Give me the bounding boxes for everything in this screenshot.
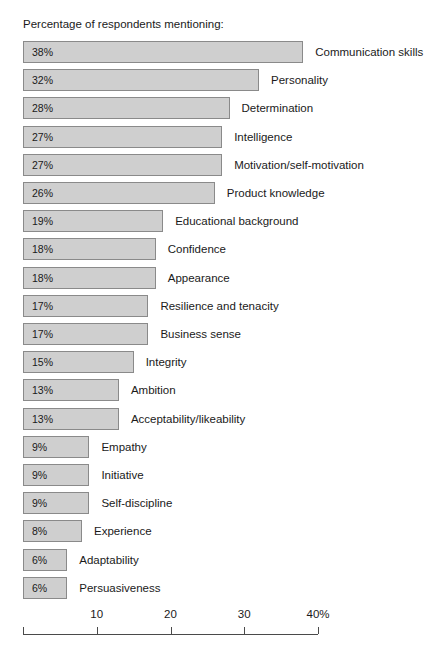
bar-category-label: Integrity: [146, 356, 187, 368]
bar-self-discipline[interactable]: 9%: [23, 492, 89, 514]
bar-category-label: Communication skills: [315, 46, 423, 58]
bar-initiative[interactable]: 9%: [23, 464, 89, 486]
bar-ambition[interactable]: 13%: [23, 379, 119, 401]
bar-category-label: Experience: [94, 525, 152, 537]
bar-value-label: 28%: [32, 102, 53, 114]
bar-empathy[interactable]: 9%: [23, 436, 89, 458]
bar-educational-background[interactable]: 19%: [23, 210, 163, 232]
bar-value-label: 19%: [32, 215, 53, 227]
bar-value-label: 17%: [32, 300, 53, 312]
bar-category-label: Initiative: [101, 469, 143, 481]
bar-category-label: Educational background: [175, 215, 298, 227]
bar-category-label: Confidence: [168, 243, 226, 255]
bar-category-label: Business sense: [160, 328, 241, 340]
bar-value-label: 27%: [32, 159, 53, 171]
bar-confidence[interactable]: 18%: [23, 238, 156, 260]
bar-motivation-self-motivation[interactable]: 27%: [23, 154, 222, 176]
bar-communication-skills[interactable]: 38%: [23, 41, 303, 63]
bar-value-label: 26%: [32, 187, 53, 199]
bar-category-label: Acceptability/likeability: [131, 413, 245, 425]
bar-category-label: Self-discipline: [101, 497, 172, 509]
bar-category-label: Motivation/self-motivation: [234, 159, 364, 171]
bar-personality[interactable]: 32%: [23, 69, 259, 91]
bar-category-label: Ambition: [131, 384, 176, 396]
bar-value-label: 15%: [32, 356, 53, 368]
bars-layer: 38%Communication skills32%Personality28%…: [0, 0, 447, 654]
bar-acceptability-likeability[interactable]: 13%: [23, 408, 119, 430]
bar-value-label: 17%: [32, 328, 53, 340]
bar-category-label: Intelligence: [234, 131, 292, 143]
bar-value-label: 32%: [32, 74, 53, 86]
bar-value-label: 38%: [32, 46, 53, 58]
bar-category-label: Empathy: [101, 441, 146, 453]
bar-chart: Percentage of respondents mentioning: 38…: [0, 0, 447, 654]
bar-business-sense[interactable]: 17%: [23, 323, 148, 345]
bar-category-label: Persuasiveness: [79, 582, 160, 594]
bar-value-label: 13%: [32, 384, 53, 396]
bar-value-label: 9%: [32, 497, 47, 509]
bar-value-label: 6%: [32, 582, 47, 594]
bar-value-label: 8%: [32, 525, 47, 537]
bar-category-label: Appearance: [168, 272, 230, 284]
bar-appearance[interactable]: 18%: [23, 267, 156, 289]
bar-value-label: 18%: [32, 243, 53, 255]
bar-category-label: Resilience and tenacity: [160, 300, 278, 312]
bar-adaptability[interactable]: 6%: [23, 549, 67, 571]
bar-determination[interactable]: 28%: [23, 97, 230, 119]
bar-value-label: 6%: [32, 554, 47, 566]
bar-persuasiveness[interactable]: 6%: [23, 577, 67, 599]
bar-value-label: 13%: [32, 413, 53, 425]
bar-value-label: 18%: [32, 272, 53, 284]
bar-category-label: Personality: [271, 74, 328, 86]
bar-category-label: Adaptability: [79, 554, 138, 566]
bar-product-knowledge[interactable]: 26%: [23, 182, 215, 204]
bar-category-label: Determination: [242, 102, 314, 114]
bar-integrity[interactable]: 15%: [23, 351, 134, 373]
bar-category-label: Product knowledge: [227, 187, 325, 199]
bar-experience[interactable]: 8%: [23, 520, 82, 542]
bar-value-label: 9%: [32, 441, 47, 453]
bar-intelligence[interactable]: 27%: [23, 126, 222, 148]
bar-resilience-and-tenacity[interactable]: 17%: [23, 295, 148, 317]
bar-value-label: 27%: [32, 131, 53, 143]
bar-value-label: 9%: [32, 469, 47, 481]
